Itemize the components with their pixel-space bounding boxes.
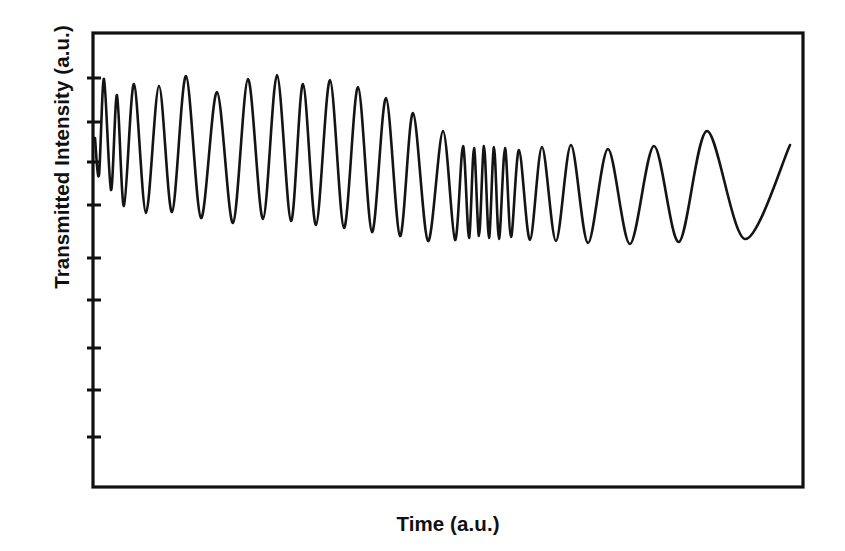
y-axis-label-wrap: Transmitted Intensity (a.u.) (0, 0, 60, 490)
figure-container: Transmitted Intensity (a.u.) Time (a.u.) (0, 0, 845, 551)
plot-svg (0, 0, 845, 551)
x-axis-label: Time (a.u.) (93, 512, 803, 536)
figure-background (0, 0, 845, 551)
y-axis-label: Transmitted Intensity (a.u.) (50, 0, 74, 337)
